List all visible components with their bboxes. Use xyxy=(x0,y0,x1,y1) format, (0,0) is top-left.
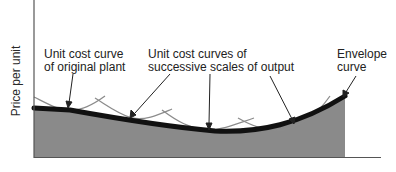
arrow-envelope xyxy=(346,76,356,92)
label-original-plant-line2: of original plant xyxy=(44,61,125,74)
arrow-head-successive-1 xyxy=(130,110,136,118)
arrow-original-plant xyxy=(69,74,73,103)
label-successive-line2: successive scales of output xyxy=(148,61,294,74)
label-successive-scales: Unit cost curves of successive scales of… xyxy=(148,48,294,74)
long-run-average-cost-diagram: Price per unit Unit cost curve of origin… xyxy=(0,0,396,172)
y-axis-label: Price per unit xyxy=(9,36,25,126)
label-envelope-curve: Envelope curve xyxy=(337,48,387,74)
arrow-successive-1 xyxy=(135,74,170,113)
arrow-successive-2 xyxy=(209,74,210,124)
arrow-head-original-plant xyxy=(66,101,72,108)
label-original-plant: Unit cost curve of original plant xyxy=(44,48,125,74)
arrow-successive-3 xyxy=(270,76,292,119)
label-envelope-line2: curve xyxy=(337,61,387,74)
diagram-canvas xyxy=(0,0,396,172)
